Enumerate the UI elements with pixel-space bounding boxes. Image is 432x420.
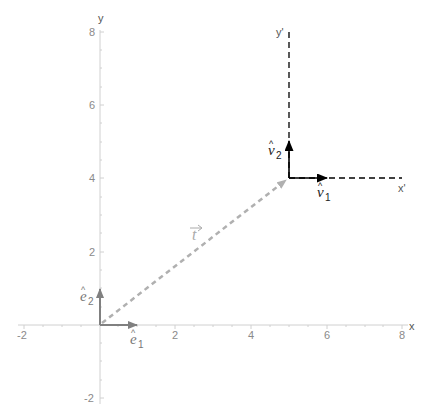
y-tick-label: 4 [89,172,95,184]
x-prime-label: x' [398,182,406,194]
x-tick-label: 2 [172,329,178,341]
x-tick-label: -2 [17,329,27,341]
v1-label: v ^ 1 [317,181,331,203]
x-axis-label: x [409,320,415,332]
svg-text:t: t [192,226,197,243]
y-tick-label: 6 [89,99,95,111]
e2-label: e ^ 2 [80,285,94,307]
t-label: t [190,225,202,243]
e1-label: e ^ 1 [130,328,144,350]
y-tick-label: 2 [89,246,95,258]
svg-text:2: 2 [276,150,282,161]
x-tick-label: 8 [399,329,405,341]
y-axis-label: y [98,12,104,24]
x-tick-label: 4 [248,329,254,341]
translation-vector-t [102,180,286,323]
svg-text:1: 1 [138,339,144,350]
svg-text:2: 2 [88,296,94,307]
y-axis [100,30,104,404]
y-tick-label: -2 [84,392,94,404]
diagram-canvas: -2 2 4 6 8 8 6 4 2 -2 x y t e ^ 1 e ^ 2 … [0,0,432,420]
x-axis [18,325,408,329]
y-tick-label: 8 [89,26,95,38]
v2-label: v ^ 2 [268,139,282,161]
x-tick-label: 6 [324,329,330,341]
svg-text:1: 1 [325,192,331,203]
y-prime-label: y' [276,26,284,38]
